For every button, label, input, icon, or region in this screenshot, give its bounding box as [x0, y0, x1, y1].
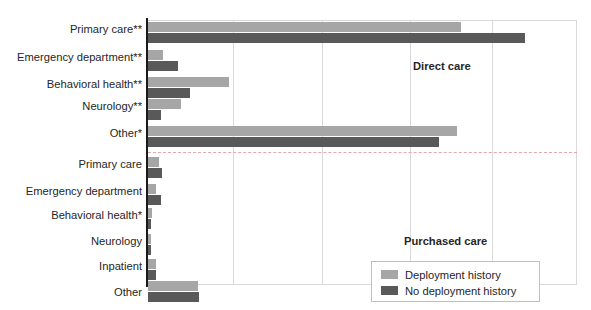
bar-inpatient-purchased-deployment	[148, 259, 156, 269]
bar-primary-care-purchased-no-deployment	[148, 168, 162, 178]
bar-behavioral-health-purchased-no-deployment	[148, 219, 151, 229]
bar-primary-care-direct-no-deployment	[148, 33, 525, 43]
cat-label-other-direct: Other*	[2, 127, 142, 139]
cat-label-emergency-department-purchased: Emergency department	[2, 185, 142, 197]
bar-neurology-direct-no-deployment	[148, 110, 161, 120]
cat-label-neurology-direct: Neurology**	[2, 100, 142, 112]
cat-label-emergency-department-direct: Emergency department**	[2, 51, 142, 63]
bar-other-purchased-deployment	[148, 281, 198, 291]
group-separator	[148, 152, 577, 153]
legend-item-deployment-history: Deployment history	[381, 267, 539, 282]
legend-swatch-deployment-history	[381, 270, 398, 279]
cat-label-behavioral-health-purchased: Behavioral health*	[2, 209, 142, 221]
bar-other-direct-no-deployment	[148, 137, 439, 147]
cat-label-neurology-purchased: Neurology	[2, 235, 142, 247]
bar-behavioral-health-purchased-deployment	[148, 208, 152, 218]
legend-swatch-no-deployment-history	[381, 286, 398, 295]
legend-item-no-deployment-history: No deployment history	[381, 283, 539, 298]
cat-label-inpatient-purchased: Inpatient	[2, 260, 142, 272]
cat-label-primary-care-direct: Primary care**	[2, 23, 142, 35]
bar-chart: Primary care** Emergency department** Be…	[0, 0, 591, 310]
bar-emergency-department-purchased-deployment	[148, 184, 156, 194]
category-label-column: Primary care** Emergency department** Be…	[0, 0, 142, 310]
bar-neurology-purchased-no-deployment	[148, 245, 151, 255]
bar-behavioral-health-direct-no-deployment	[148, 88, 190, 98]
bar-behavioral-health-direct-deployment	[148, 77, 229, 87]
bar-neurology-direct-deployment	[148, 99, 181, 109]
bar-primary-care-direct-deployment	[148, 22, 461, 32]
bar-other-direct-deployment	[148, 126, 457, 136]
bar-emergency-department-direct-no-deployment	[148, 61, 178, 71]
annotation-direct-care: Direct care	[413, 60, 471, 72]
legend-label-deployment-history: Deployment history	[405, 269, 501, 281]
bar-primary-care-purchased-deployment	[148, 157, 159, 167]
bar-emergency-department-purchased-no-deployment	[148, 195, 161, 205]
bar-inpatient-purchased-no-deployment	[148, 270, 156, 280]
annotation-purchased-care: Purchased care	[404, 235, 487, 247]
legend-label-no-deployment-history: No deployment history	[405, 285, 516, 297]
cat-label-primary-care-purchased: Primary care	[2, 158, 142, 170]
bar-other-purchased-no-deployment	[148, 292, 199, 302]
bar-neurology-purchased-deployment	[148, 234, 151, 244]
bar-emergency-department-direct-deployment	[148, 50, 163, 60]
chart-legend: Deployment history No deployment history	[371, 261, 540, 302]
cat-label-behavioral-health-direct: Behavioral health**	[2, 78, 142, 90]
cat-label-other-purchased: Other	[2, 286, 142, 298]
